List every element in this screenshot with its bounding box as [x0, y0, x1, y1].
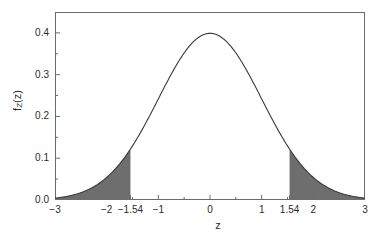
left-tail-shading — [55, 149, 130, 200]
x-tick-label: 0 — [207, 205, 213, 215]
density-curve — [55, 33, 365, 198]
y-tick-label: 0.0 — [35, 195, 49, 205]
x-tick-label: 1 — [259, 205, 265, 215]
x-axis-title-text: z — [63, 219, 373, 231]
y-axis-ticks — [55, 33, 60, 179]
x-tick-label: 3 — [362, 205, 368, 215]
x-tick-label: 2 — [311, 205, 317, 215]
right-tail-shading — [290, 149, 365, 200]
y-axis-title-text: fZ(z) — [11, 90, 24, 111]
y-tick-label: 0.2 — [35, 111, 49, 121]
x-tick-label: −2 — [101, 205, 112, 215]
shaded-tails — [55, 149, 365, 200]
y-axis-title-subscript: Z — [15, 102, 24, 107]
x-tick-label: −1.54 — [118, 205, 143, 215]
y-tick-label: 0.1 — [35, 153, 49, 163]
y-tick-label: 0.3 — [35, 70, 49, 80]
y-axis-title: fZ(z) — [8, 0, 26, 200]
chart-figure: −3−2−1.54−1011.5423 0.00.10.20.30.4 z fZ… — [0, 0, 381, 238]
x-tick-label: −1 — [153, 205, 164, 215]
y-axis-title-arg: (z) — [11, 90, 23, 103]
normal-distribution-plot — [55, 12, 365, 200]
x-tick-label: −3 — [49, 205, 60, 215]
x-tick-label: 1.54 — [280, 205, 299, 215]
y-tick-label: 0.4 — [35, 28, 49, 38]
x-axis-title: z — [0, 219, 381, 231]
